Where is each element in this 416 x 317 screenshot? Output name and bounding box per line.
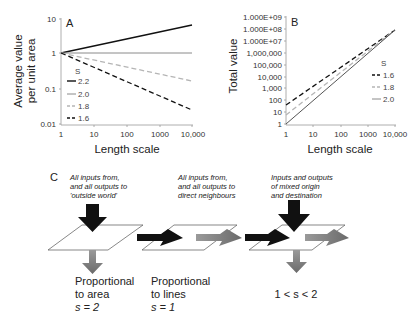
svg-text:and destination: and destination bbox=[271, 191, 322, 200]
svg-text:Inputs and outputs: Inputs and outputs bbox=[271, 173, 333, 182]
svg-text:of mixed origin: of mixed origin bbox=[271, 182, 320, 191]
panel-b-x-ticks: 1 10 100 1000 10,000 bbox=[284, 130, 408, 139]
svg-text:'outside world': 'outside world' bbox=[70, 191, 118, 200]
svg-text:100: 100 bbox=[269, 96, 283, 105]
svg-text:0.01: 0.01 bbox=[40, 120, 56, 129]
svg-text:100: 100 bbox=[334, 130, 348, 139]
svg-text:1.000E+07: 1.000E+07 bbox=[243, 37, 282, 46]
svg-text:1.000E+08: 1.000E+08 bbox=[243, 25, 282, 34]
panel-a-y-ticks: 10 1 0.1 0.01 bbox=[40, 15, 56, 129]
svg-text:S: S bbox=[381, 59, 386, 68]
svg-text:1000: 1000 bbox=[151, 130, 169, 139]
panel-c-label: C bbox=[50, 171, 58, 183]
panel-b-y-label: Total value bbox=[227, 39, 239, 94]
panel-a-x-label: Length scale bbox=[94, 143, 159, 155]
svg-text:Average value: Average value bbox=[12, 34, 24, 107]
panel-a-x-ticks: 1 10 100 1000 10,000 bbox=[59, 130, 206, 139]
svg-text:to lines: to lines bbox=[151, 288, 186, 300]
panel-c-diagram: C All inputs from, and all outputs to 'o… bbox=[48, 171, 349, 313]
panel-b-y-ticks: 1 10 100 1,000 10,000 100,000 1,000,000 … bbox=[243, 13, 282, 129]
svg-text:10,000: 10,000 bbox=[258, 73, 283, 82]
svg-text:1.6: 1.6 bbox=[383, 71, 395, 80]
svg-text:to area: to area bbox=[75, 288, 110, 300]
output-arrow-down-icon bbox=[286, 250, 307, 273]
svg-text:10: 10 bbox=[47, 15, 56, 24]
svg-text:2.0: 2.0 bbox=[78, 90, 90, 99]
svg-text:1.8: 1.8 bbox=[383, 83, 395, 92]
panel-a-label: A bbox=[66, 17, 74, 29]
svg-text:1.6: 1.6 bbox=[78, 114, 90, 123]
svg-text:and all outputs to: and all outputs to bbox=[70, 182, 127, 191]
svg-text:1.000E+09: 1.000E+09 bbox=[243, 13, 282, 22]
svg-text:100,000: 100,000 bbox=[253, 61, 282, 70]
svg-text:1 < s < 2: 1 < s < 2 bbox=[275, 288, 318, 300]
svg-text:2.2: 2.2 bbox=[78, 77, 90, 86]
series-b-2.0 bbox=[286, 30, 395, 124]
series-b-1.6 bbox=[286, 30, 395, 105]
svg-text:0.1: 0.1 bbox=[45, 85, 57, 94]
svg-text:direct neighbours: direct neighbours bbox=[178, 191, 236, 200]
svg-text:2.0: 2.0 bbox=[383, 95, 395, 104]
panel-b-x-label: Length scale bbox=[307, 143, 372, 155]
panel-a-y-label: Average value per unit area bbox=[12, 34, 37, 107]
svg-text:1,000: 1,000 bbox=[262, 84, 283, 93]
svg-text:s = 2: s = 2 bbox=[75, 301, 99, 313]
svg-text:1: 1 bbox=[52, 49, 57, 58]
svg-text:S: S bbox=[75, 67, 80, 76]
figure: A 10 1 0.1 0.01 1 10 100 1000 10,000 bbox=[0, 0, 416, 317]
panel-b-label: B bbox=[291, 16, 298, 28]
scenario-lines: All inputs from, and all outputs to dire… bbox=[137, 173, 242, 313]
svg-text:1000: 1000 bbox=[359, 130, 377, 139]
svg-text:per unit area: per unit area bbox=[25, 38, 37, 103]
svg-text:10,000: 10,000 bbox=[383, 130, 408, 139]
scenario-area: All inputs from, and all outputs to 'out… bbox=[48, 173, 143, 313]
svg-text:All inputs from,: All inputs from, bbox=[69, 173, 120, 182]
output-arrow-down-icon bbox=[82, 250, 103, 274]
panel-b-legend: S 1.6 1.8 2.0 bbox=[372, 59, 395, 104]
svg-text:10: 10 bbox=[309, 130, 318, 139]
svg-text:Proportional: Proportional bbox=[75, 275, 134, 287]
svg-text:All inputs from,: All inputs from, bbox=[177, 173, 228, 182]
svg-text:10: 10 bbox=[273, 108, 282, 117]
scenario-mixed: Inputs and outputs of mixed origin and d… bbox=[245, 173, 349, 300]
series-a-2.2 bbox=[61, 25, 192, 53]
svg-text:1: 1 bbox=[59, 130, 64, 139]
svg-text:Proportional: Proportional bbox=[151, 275, 210, 287]
svg-text:10: 10 bbox=[90, 130, 99, 139]
svg-text:1: 1 bbox=[284, 130, 289, 139]
svg-text:s = 1: s = 1 bbox=[151, 301, 175, 313]
svg-text:1.8: 1.8 bbox=[78, 102, 90, 111]
svg-text:1: 1 bbox=[278, 120, 283, 129]
svg-text:and all outputs to: and all outputs to bbox=[178, 182, 235, 191]
panel-a-legend: S 2.2 2.0 1.8 1.6 bbox=[67, 67, 90, 123]
svg-text:1,000,000: 1,000,000 bbox=[246, 49, 282, 58]
panel-b-chart: B 1 10 100 1,000 10,000 100,000 1,0 bbox=[227, 13, 408, 155]
series-b-1.8 bbox=[286, 30, 395, 115]
panel-a-chart: A 10 1 0.1 0.01 1 10 100 1000 10,000 bbox=[12, 15, 206, 155]
svg-text:10,000: 10,000 bbox=[181, 130, 206, 139]
svg-text:100: 100 bbox=[120, 130, 134, 139]
